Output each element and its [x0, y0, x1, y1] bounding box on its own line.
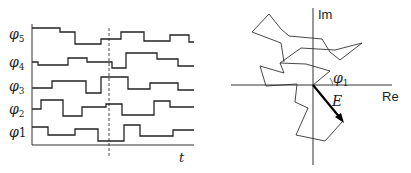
signal-phi4 [32, 53, 194, 68]
label-phi4: φ4 [9, 54, 25, 72]
label-im: Im [318, 7, 332, 22]
phasor-walk-lower [260, 63, 343, 141]
phasor-panel: Im Re 1φ1 E [231, 7, 399, 165]
label-E: E [331, 93, 342, 109]
signal-phi1 [32, 125, 194, 141]
figure: φ5 φ4 φ3 φ2 φ1 t Im Re 1φ1 E [0, 0, 411, 173]
signal-phi2 [32, 100, 194, 116]
label-re: Re [382, 89, 399, 104]
signal-phi5 [32, 28, 194, 44]
signal-phi3 [32, 77, 194, 93]
label-phi2: φ2 [9, 101, 25, 119]
time-series-panel: φ5 φ4 φ3 φ2 φ1 t [9, 24, 194, 165]
label-phi3: φ3 [9, 78, 25, 96]
label-phi1: φ1 [9, 124, 26, 140]
phasor-walk-upper [252, 14, 362, 63]
label-t: t [179, 150, 185, 165]
label-phi5: φ5 [9, 26, 25, 44]
label-phi1-angle: 1φ1 [333, 70, 349, 88]
